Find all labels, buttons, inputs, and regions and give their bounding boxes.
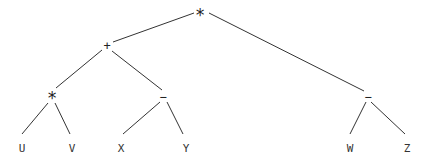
operator-node-n3: − xyxy=(159,90,166,104)
tree-nodes: *+*−−UVXYWZ xyxy=(19,5,411,155)
operator-node-n4: − xyxy=(364,90,371,104)
tree-edge-n0-n4 xyxy=(209,13,364,91)
tree-edges xyxy=(22,13,405,134)
tree-edge-n4-n9 xyxy=(350,102,366,134)
tree-edge-n2-n5 xyxy=(22,103,48,134)
tree-edge-n2-n6 xyxy=(55,103,70,134)
leaf-node-n7: X xyxy=(118,142,125,155)
leaf-node-n10: Z xyxy=(404,142,411,155)
tree-edge-n1-n2 xyxy=(56,50,102,88)
operator-node-n2: * xyxy=(47,88,57,108)
operator-node-n0: * xyxy=(195,5,205,25)
tree-edge-n0-n1 xyxy=(113,13,194,42)
leaf-node-n5: U xyxy=(19,142,26,155)
tree-edge-n3-n8 xyxy=(167,102,183,134)
tree-edge-n1-n3 xyxy=(112,51,162,90)
leaf-node-n8: Y xyxy=(183,142,190,155)
expression-tree-diagram: *+*−−UVXYWZ xyxy=(0,0,431,164)
leaf-node-n9: W xyxy=(347,142,354,155)
leaf-node-n6: V xyxy=(69,142,76,155)
tree-edge-n3-n7 xyxy=(123,102,160,134)
operator-node-n1: + xyxy=(103,39,110,53)
tree-edge-n4-n10 xyxy=(371,102,405,134)
